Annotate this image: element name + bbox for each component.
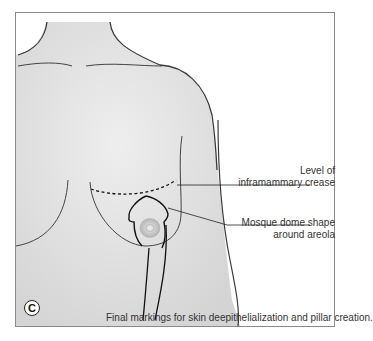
- panel-letter-badge: C: [24, 300, 40, 316]
- label-mosque-dome: Mosque dome shape around areola: [215, 217, 335, 241]
- areola: [140, 219, 160, 238]
- label-inframammary: Level of inframammary crease: [215, 165, 335, 189]
- figure-caption: Final markings for skin deepithelializat…: [106, 312, 373, 323]
